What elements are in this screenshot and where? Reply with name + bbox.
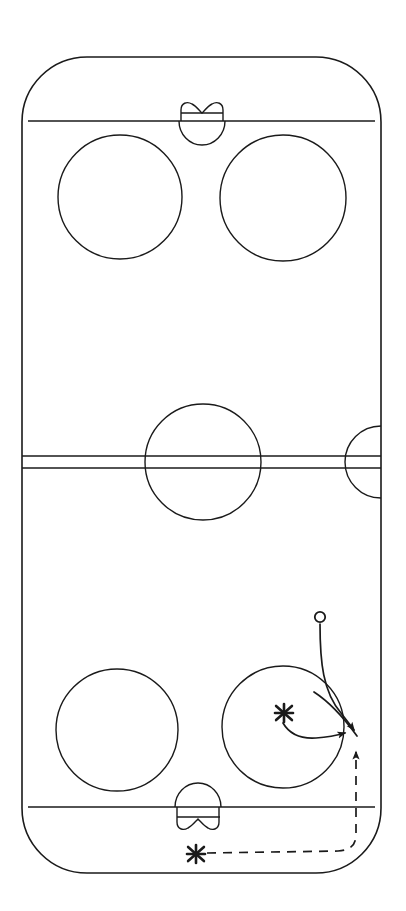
- goal-crease-top: [179, 121, 225, 145]
- player-marker-o: [315, 612, 325, 622]
- rink-canvas: [0, 0, 406, 911]
- player-marker-x-slot: [275, 704, 293, 722]
- goal-net-bottom: [177, 807, 219, 829]
- skating-path-o-player: [320, 624, 354, 730]
- dashed-skating-path-x-behind-net: [207, 752, 356, 853]
- rink-boundary-group: [22, 57, 381, 873]
- curve-loop-o-player: [314, 692, 357, 736]
- rink-outline: [22, 57, 381, 873]
- center-faceoff-circle: [145, 404, 261, 520]
- goal-net-top: [181, 103, 223, 121]
- faceoff-circle-bottom-left: [56, 669, 178, 791]
- goal-bottom-group: [175, 783, 221, 829]
- play-annotations-group: [187, 612, 357, 863]
- hockey-rink-diagram: [0, 0, 406, 911]
- faceoff-circle-top-right: [220, 135, 346, 261]
- player-marker-x-behind-net: [187, 845, 205, 863]
- referee-crease-semicircle: [345, 426, 381, 498]
- goal-crease-bottom: [175, 783, 221, 807]
- faceoff-circles-group: [56, 135, 381, 791]
- faceoff-circle-top-left: [58, 135, 182, 259]
- rink-markings-group: [22, 121, 381, 807]
- pass-path-x-slot: [283, 723, 345, 738]
- goal-top-group: [179, 103, 225, 145]
